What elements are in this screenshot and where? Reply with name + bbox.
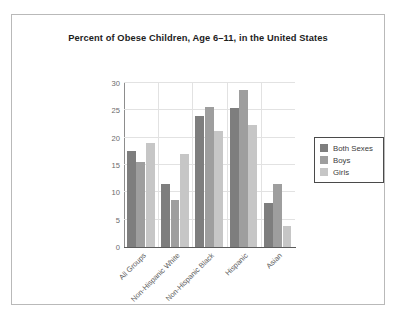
x-tick-label-4: Asian bbox=[265, 251, 284, 270]
gridline-x-4 bbox=[261, 83, 262, 247]
y-tick-label-30: 30 bbox=[98, 79, 120, 88]
bar-group-3 bbox=[230, 83, 258, 247]
plot-area bbox=[124, 83, 295, 247]
bar-group-2 bbox=[195, 83, 223, 247]
bar[interactable] bbox=[273, 184, 282, 247]
bar[interactable] bbox=[283, 226, 292, 247]
chart-title: Percent of Obese Children, Age 6–11, in … bbox=[12, 33, 384, 43]
y-tick-label-10: 10 bbox=[98, 188, 120, 197]
legend-item-girls[interactable]: Girls bbox=[320, 166, 378, 178]
bar-group-4 bbox=[264, 83, 292, 247]
bar[interactable] bbox=[127, 151, 136, 247]
x-tick-label-0: All Groups bbox=[117, 251, 148, 282]
bar[interactable] bbox=[161, 184, 170, 247]
bar[interactable] bbox=[180, 154, 189, 247]
x-tick-label-3: Hispanic bbox=[224, 251, 250, 277]
gridline-x-1 bbox=[158, 83, 159, 247]
legend-label: Both Sexes bbox=[333, 144, 373, 153]
bar-group-0 bbox=[127, 83, 155, 247]
legend-swatch-icon bbox=[320, 156, 328, 164]
legend-swatch-icon bbox=[320, 168, 328, 176]
bar[interactable] bbox=[248, 125, 257, 247]
gridline-x-2 bbox=[192, 83, 193, 247]
bar[interactable] bbox=[205, 107, 214, 247]
gridline-x-3 bbox=[227, 83, 228, 247]
bar[interactable] bbox=[195, 116, 204, 247]
x-axis-line bbox=[124, 247, 296, 248]
bar[interactable] bbox=[136, 162, 145, 247]
y-tick-label-5: 5 bbox=[98, 215, 120, 224]
y-tick-label-20: 20 bbox=[98, 133, 120, 142]
bar[interactable] bbox=[264, 203, 273, 247]
figure-frame: Percent of Obese Children, Age 6–11, in … bbox=[11, 14, 385, 305]
chart-legend: Both SexesBoysGirls bbox=[314, 137, 384, 183]
bar[interactable] bbox=[239, 90, 248, 247]
legend-item-boys[interactable]: Boys bbox=[320, 154, 378, 166]
legend-swatch-icon bbox=[320, 144, 328, 152]
legend-item-both-sexes[interactable]: Both Sexes bbox=[320, 142, 378, 154]
bar[interactable] bbox=[171, 200, 180, 247]
bar[interactable] bbox=[146, 143, 155, 247]
x-axis-tick-labels: All GroupsNon-Hispanic WhiteNon-Hispanic… bbox=[124, 251, 295, 311]
legend-label: Girls bbox=[333, 168, 349, 177]
bar-group-1 bbox=[161, 83, 189, 247]
legend-label: Boys bbox=[333, 156, 350, 165]
y-tick-label-25: 25 bbox=[98, 106, 120, 115]
bar[interactable] bbox=[214, 131, 223, 247]
y-axis-tick-labels: 051015202530 bbox=[96, 83, 120, 247]
y-tick-label-0: 0 bbox=[98, 243, 120, 252]
y-tick-label-15: 15 bbox=[98, 161, 120, 170]
bar[interactable] bbox=[230, 108, 239, 247]
